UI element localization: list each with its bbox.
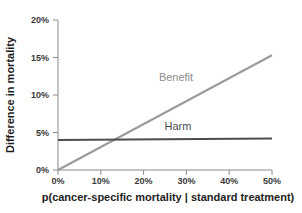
x-tick-label-10: 10% — [92, 176, 110, 186]
y-tick-label-10: 10% — [31, 90, 49, 100]
chart-figure: 0% 5% 10% 15% 20% 0% 10% 20% 30% 40% 50%… — [0, 0, 302, 213]
line-chart: 0% 5% 10% 15% 20% 0% 10% 20% 30% 40% 50%… — [0, 0, 302, 213]
y-axis-title: Difference in mortality — [4, 36, 16, 153]
y-tick-label-0: 0% — [36, 165, 49, 175]
y-tick-label-5: 5% — [36, 128, 49, 138]
x-tick-label-0: 0% — [51, 176, 64, 186]
x-tick-label-20: 20% — [135, 176, 153, 186]
plot-area — [58, 20, 272, 170]
y-tick-label-20: 20% — [31, 15, 49, 25]
x-tick-label-30: 30% — [177, 176, 195, 186]
y-tick-label-15: 15% — [31, 53, 49, 63]
harm-label: Harm — [165, 120, 192, 132]
benefit-label: Benefit — [159, 71, 193, 83]
x-tick-label-50: 50% — [263, 176, 281, 186]
x-tick-label-40: 40% — [220, 176, 238, 186]
x-axis-title: p(cancer-specific mortality | standard t… — [42, 191, 295, 203]
